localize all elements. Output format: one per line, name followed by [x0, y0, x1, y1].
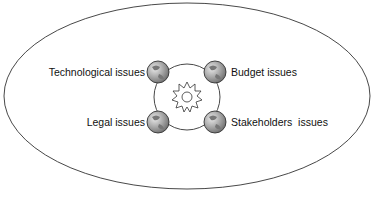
label-budget-issues: Budget issues — [231, 66, 297, 78]
globe-icon — [147, 61, 169, 83]
globe-icon — [204, 111, 226, 133]
globe-icon — [147, 111, 169, 133]
diagram-canvas — [0, 0, 374, 200]
label-stakeholders-issues: Stakeholders issues — [231, 116, 328, 128]
label-technological-issues: Technological issues — [49, 66, 145, 78]
globe-icon — [204, 61, 226, 83]
label-legal-issues: Legal issues — [87, 116, 145, 128]
sun-icon — [172, 82, 202, 112]
